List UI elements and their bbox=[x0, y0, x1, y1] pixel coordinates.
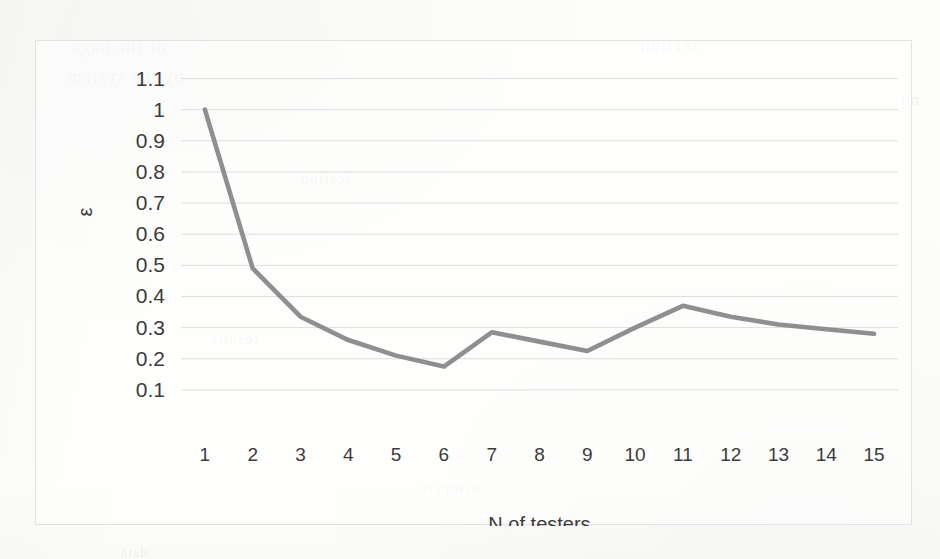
line-chart: 0.10.20.30.40.50.60.70.80.911.1 12345678… bbox=[36, 41, 913, 526]
x-axis-tick-label: 9 bbox=[582, 444, 593, 465]
x-axis-tick-label: 5 bbox=[391, 444, 402, 465]
y-axis-tick-label: 0.6 bbox=[136, 222, 165, 245]
y-axis-tick-label: 0.9 bbox=[136, 129, 165, 152]
x-axis-tick-label: 8 bbox=[534, 444, 545, 465]
x-axis-tick-label: 12 bbox=[720, 444, 741, 465]
y-axis-tick-labels: 0.10.20.30.40.50.60.70.80.911.1 bbox=[136, 67, 166, 401]
y-axis-tick-label: 0.3 bbox=[136, 316, 165, 339]
y-axis-tick-label: 0.8 bbox=[136, 160, 165, 183]
bleed-through-text: data bbox=[120, 545, 147, 559]
x-axis-tick-label: 10 bbox=[625, 444, 646, 465]
x-axis-tick-label: 13 bbox=[768, 444, 789, 465]
x-axis-tick-label: 3 bbox=[295, 444, 306, 465]
x-axis-title: N of testers bbox=[488, 513, 590, 526]
chart-frame: 0.10.20.30.40.50.60.70.80.911.1 12345678… bbox=[35, 40, 912, 525]
x-axis-tick-label: 6 bbox=[439, 444, 450, 465]
y-axis-tick-label: 0.4 bbox=[136, 284, 166, 307]
x-axis-tick-label: 4 bbox=[343, 444, 354, 465]
x-axis-tick-label: 1 bbox=[200, 444, 211, 465]
y-axis-tick-label: 0.1 bbox=[136, 378, 165, 401]
x-axis-tick-label: 11 bbox=[673, 444, 693, 465]
y-axis-tick-label: 1.1 bbox=[136, 67, 165, 90]
x-axis-tick-labels: 123456789101112131415 bbox=[200, 444, 885, 465]
y-axis-tick-label: 0.7 bbox=[136, 191, 165, 214]
x-axis-tick-label: 7 bbox=[486, 444, 497, 465]
x-axis-tick-label: 15 bbox=[864, 444, 885, 465]
y-axis-tick-label: 0.2 bbox=[136, 347, 165, 370]
y-axis-title: ε bbox=[74, 207, 96, 216]
y-axis-tick-label: 0.5 bbox=[136, 253, 165, 276]
x-axis-tick-label: 2 bbox=[247, 444, 258, 465]
y-axis-tick-label: 1 bbox=[153, 98, 165, 121]
x-axis-tick-label: 14 bbox=[816, 444, 838, 465]
